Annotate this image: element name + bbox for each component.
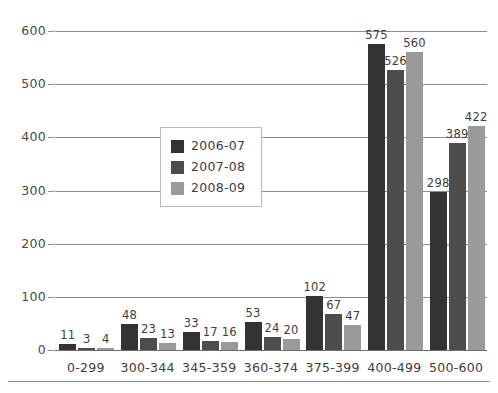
legend-label: 2008-09 (191, 182, 245, 195)
bar-value-label: 102 (295, 282, 335, 294)
bar-value-label: 16 (209, 327, 249, 339)
legend-label: 2007-08 (191, 161, 245, 174)
y-axis-tick-label: 600 (2, 25, 46, 38)
bar (387, 70, 404, 350)
bar (468, 126, 485, 350)
bar-value-label: 47 (333, 311, 373, 323)
y-axis-tick (48, 297, 54, 298)
bar-value-label: 560 (394, 38, 434, 50)
top-margin-spacer (0, 0, 498, 10)
bar (97, 348, 114, 350)
legend-item: 2006-07 (171, 136, 261, 157)
footer-divider (8, 381, 490, 382)
bar-value-label: 20 (271, 325, 311, 337)
plot-area: 1134482313331716532420102674757552656029… (55, 20, 487, 358)
x-axis-category-label: 500-600 (425, 360, 487, 375)
bar (449, 143, 466, 350)
y-axis-tick (48, 84, 54, 85)
legend-swatch-icon (171, 182, 184, 195)
y-axis-tick (48, 191, 54, 192)
chart-legend: 2006-07 2007-08 2008-09 (160, 127, 262, 207)
bar-value-label: 422 (456, 112, 496, 124)
y-axis-tick-label: 400 (2, 131, 46, 144)
bar-chart: 0100200300400500600 11344823133317165324… (0, 0, 498, 393)
legend-swatch-icon (171, 161, 184, 174)
x-axis-baseline (55, 350, 487, 351)
bar (368, 44, 385, 350)
bar (221, 342, 238, 351)
bar (202, 341, 219, 350)
x-axis-category-label: 0-299 (55, 360, 117, 375)
x-axis-category-label: 360-374 (240, 360, 302, 375)
y-axis-tick-label: 100 (2, 291, 46, 304)
bar (430, 192, 447, 350)
y-axis-tick (48, 244, 54, 245)
legend-label: 2006-07 (191, 140, 245, 153)
y-axis-tick-label: 300 (2, 185, 46, 198)
bar (344, 325, 361, 350)
x-axis-category-label: 400-499 (364, 360, 426, 375)
bar-value-label: 4 (86, 334, 126, 346)
y-axis-tick-label: 500 (2, 78, 46, 91)
legend-item: 2008-09 (171, 178, 261, 199)
bar-value-label: 575 (356, 30, 396, 42)
bar (283, 339, 300, 350)
legend-item: 2007-08 (171, 157, 261, 178)
bar (264, 337, 281, 350)
legend-swatch-icon (171, 140, 184, 153)
bar (406, 52, 423, 350)
x-axis-category-label: 375-399 (302, 360, 364, 375)
y-axis-tick (48, 350, 54, 351)
bar-value-label: 48 (110, 310, 150, 322)
y-axis-tick-label: 0 (2, 344, 46, 357)
y-axis-tick (48, 31, 54, 32)
gridline (55, 31, 487, 32)
y-axis-tick-label: 200 (2, 238, 46, 251)
bar-value-label: 53 (233, 308, 273, 320)
y-axis-tick (48, 137, 54, 138)
bar-value-label: 13 (148, 329, 188, 341)
bar (78, 348, 95, 350)
x-axis-category-label: 345-359 (178, 360, 240, 375)
bar (159, 343, 176, 350)
x-axis-category-label: 300-344 (117, 360, 179, 375)
